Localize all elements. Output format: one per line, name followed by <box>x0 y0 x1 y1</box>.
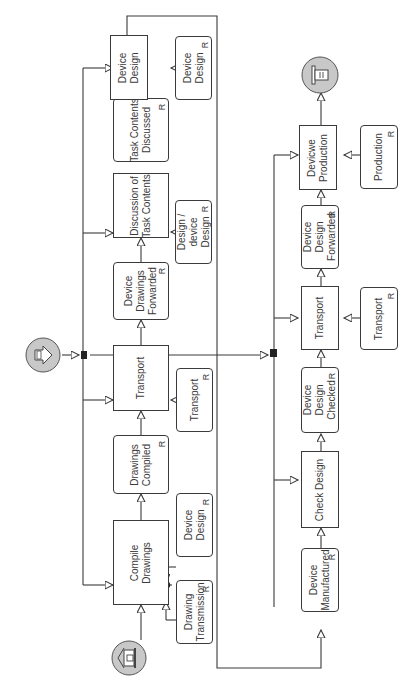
step-label: Task Contents <box>141 174 153 237</box>
step-task-contents-discussed[interactable]: Task ContentsDiscussed R <box>113 98 169 162</box>
resource-label: Production <box>373 133 385 181</box>
resource-label: Device <box>182 52 194 83</box>
start-event[interactable] <box>112 641 146 675</box>
step-compile-drawings[interactable]: CompileDrawings <box>113 520 169 605</box>
resource-marker: R <box>386 131 396 138</box>
end-event[interactable] <box>302 57 338 93</box>
step-label: Devicwe <box>306 134 318 182</box>
resource-device-design-a[interactable]: DeviceDesign R <box>176 493 213 557</box>
step-device-manufactured[interactable]: DeviceManufactured R <box>301 548 339 612</box>
step-devicwe-production[interactable]: DevicweProduction <box>299 125 337 190</box>
step-label: Transport <box>314 297 326 339</box>
resource-device-design-b[interactable]: DeviceDesign R <box>175 36 212 100</box>
resource-drawing-transmission[interactable]: DrawingTransmission R <box>176 580 213 644</box>
resource-marker: R <box>157 441 167 448</box>
step-label: Device <box>308 549 320 610</box>
resource-transport-2[interactable]: Transport R <box>360 287 398 350</box>
resource-production[interactable]: Production R <box>360 125 398 189</box>
resource-marker: R <box>201 586 211 593</box>
step-label: Check Design <box>314 458 326 520</box>
step-label: Task Contents <box>129 98 141 161</box>
resource-label: Drawing <box>183 582 195 641</box>
resource-design-device-design[interactable]: Design /deviceDesign R <box>175 200 212 264</box>
resource-marker: R <box>157 104 167 111</box>
step-label: Device <box>302 213 314 261</box>
resource-label: Design / <box>176 214 188 251</box>
step-transport-2[interactable]: Transport <box>301 286 339 350</box>
step-device-design-forwarded[interactable]: DeviceDesignForwarded R <box>301 205 339 269</box>
step-label: Forwarded <box>147 267 159 315</box>
step-label: Design <box>314 380 326 419</box>
split-gate <box>81 351 87 359</box>
resource-label: Device <box>183 509 195 540</box>
step-label: Discussed <box>141 98 153 161</box>
resource-marker: R <box>200 206 210 213</box>
resource-marker: R <box>201 499 211 506</box>
split-gate-bottom <box>270 349 277 357</box>
step-check-design[interactable]: Check Design <box>301 451 339 528</box>
resource-marker: R <box>327 211 337 218</box>
step-discussion-task-contents[interactable]: Discussion ofTask Contents <box>113 173 169 238</box>
step-label: Design <box>314 213 326 261</box>
step-label: Drawings <box>129 443 141 485</box>
resource-label: Design <box>195 509 207 540</box>
step-drawings-compiled[interactable]: DrawingsCompiled R <box>113 435 169 494</box>
resource-marker: R <box>200 42 210 49</box>
step-label: Device <box>302 380 314 419</box>
intermediate-event[interactable] <box>26 338 60 372</box>
step-label: Compiled <box>141 443 153 485</box>
resource-label: Transport <box>373 297 385 339</box>
step-transport-1[interactable]: Transport <box>113 345 169 411</box>
step-label: Checked <box>326 380 338 419</box>
resource-marker: R <box>201 374 211 381</box>
step-label: Drawings <box>141 542 153 584</box>
process-diagram <box>0 0 414 680</box>
step-label: Design <box>129 52 141 83</box>
resource-label: device <box>188 214 200 251</box>
step-label: Forwarded <box>326 213 338 261</box>
resource-marker: R <box>327 554 337 561</box>
step-device-design[interactable]: DeviceDesign <box>110 35 148 100</box>
step-label: Compile <box>129 542 141 584</box>
resource-marker: R <box>327 373 337 380</box>
step-label: Device <box>123 267 135 315</box>
resource-marker: R <box>386 293 396 300</box>
resource-label: Transport <box>189 379 201 421</box>
step-label: Discussion of <box>129 174 141 237</box>
resource-transport-1[interactable]: Transport R <box>176 368 213 432</box>
step-label: Drawings <box>135 267 147 315</box>
step-label: Production <box>318 134 330 182</box>
resource-marker: R <box>157 268 167 275</box>
step-device-drawings-forwarded[interactable]: DeviceDrawingsForwarded R <box>113 262 169 320</box>
step-label: Device <box>117 52 129 83</box>
resource-label: Design <box>200 214 212 251</box>
resource-label: Design <box>194 52 206 83</box>
step-device-design-checked[interactable]: DeviceDesignChecked R <box>301 367 339 433</box>
step-label: Transport <box>135 357 147 399</box>
